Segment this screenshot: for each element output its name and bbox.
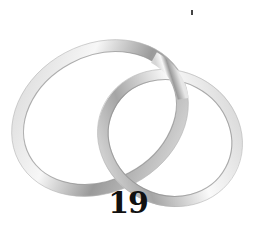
speck-mark: [191, 10, 193, 15]
wedding-rings-illustration: 19: [0, 0, 256, 225]
number-label: 19: [100, 188, 156, 218]
